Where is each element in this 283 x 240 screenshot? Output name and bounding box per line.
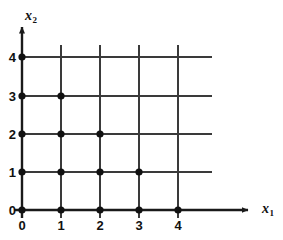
lattice-plot-svg xyxy=(0,0,283,240)
y-tick-label-2: 2 xyxy=(9,128,16,141)
vertical-gridlines xyxy=(61,45,178,218)
lattice-point xyxy=(174,206,181,213)
x-tick-label-4: 4 xyxy=(174,219,181,232)
x-tick-label-3: 3 xyxy=(135,219,142,232)
x-axis-label: x1 xyxy=(262,202,274,216)
lattice-point xyxy=(18,168,25,175)
x-tick-label-2: 2 xyxy=(96,219,103,232)
x-tick-label-1: 1 xyxy=(57,219,64,232)
lattice-point xyxy=(18,206,25,213)
lattice-point xyxy=(57,130,64,137)
lattice-point xyxy=(18,92,25,99)
lattice-point xyxy=(18,130,25,137)
lattice-point xyxy=(96,168,103,175)
y-axis-label: x2 xyxy=(25,9,37,23)
x-axis-label-symbol: x xyxy=(262,201,269,216)
y-axis-label-symbol: x xyxy=(25,8,32,23)
y-tick-label-4: 4 xyxy=(9,51,16,64)
lattice-point xyxy=(57,92,64,99)
lattice-point xyxy=(57,168,64,175)
y-tick-label-3: 3 xyxy=(9,90,16,103)
x-tick-label-0: 0 xyxy=(18,219,25,232)
y-tick-label-0: 0 xyxy=(9,204,16,217)
horizontal-gridlines xyxy=(22,57,212,172)
lattice-point xyxy=(135,206,142,213)
lattice-point xyxy=(57,206,64,213)
axis-lines xyxy=(14,27,248,218)
lattice-point xyxy=(96,206,103,213)
lattice-point xyxy=(135,168,142,175)
x-axis-label-subscript: 1 xyxy=(270,208,275,218)
y-axis-label-subscript: 2 xyxy=(33,15,38,25)
lattice-point xyxy=(96,130,103,137)
lattice-figure: 0 1 2 3 4 0 1 2 3 4 x1 x2 xyxy=(0,0,283,240)
lattice-point xyxy=(18,53,25,60)
y-tick-label-1: 1 xyxy=(9,166,16,179)
